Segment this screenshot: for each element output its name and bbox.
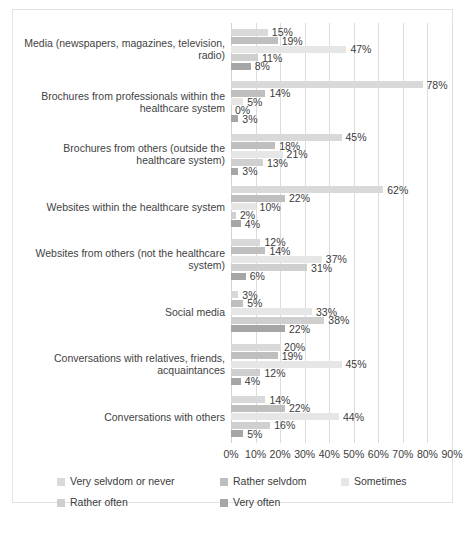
bar[interactable] [231,212,236,219]
category-label: Conversations with relatives, friends, a… [19,352,225,376]
legend-item[interactable]: Sometimes [341,471,407,492]
bar-line: 44% [231,413,452,420]
bar[interactable] [231,239,260,246]
chart-legend: Very selvdom or neverRather selvdomSomet… [57,471,429,513]
bar-group: 15%19%47%11%8% [231,29,452,71]
bar-line: 5% [231,300,452,307]
legend-label: Very often [233,497,280,508]
bar[interactable] [231,115,238,122]
bar-value-label: 21% [287,149,308,160]
bar-value-label: 31% [311,262,332,273]
bar-value-label: 78% [427,79,448,90]
bar[interactable] [231,273,246,280]
figure-caption [0,512,467,534]
x-tick-label: 90% [441,447,462,461]
bar[interactable] [231,325,285,332]
bar-line: 5% [231,430,452,437]
legend-item[interactable]: Rather often [57,492,128,513]
x-tick-label: 20% [270,447,291,461]
bar-line: 14% [231,90,452,97]
bar-value-label: 22% [289,193,310,204]
bar-value-label: 5% [247,298,262,309]
bar[interactable] [231,405,285,412]
bar-line: 37% [231,256,452,263]
bar[interactable] [231,63,251,70]
bar[interactable] [231,142,275,149]
bar-value-label: 6% [250,271,265,282]
bar-value-label: 19% [282,350,303,361]
bar[interactable] [231,430,243,437]
x-tick-label: 10% [245,447,266,461]
bar[interactable] [231,300,243,307]
bar-value-label: 22% [289,403,310,414]
legend-label: Sometimes [354,476,407,487]
bar-value-label: 14% [269,394,290,405]
bar-line: 22% [231,405,452,412]
bar-line: 38% [231,317,452,324]
bar[interactable] [231,29,268,36]
bar-value-label: 45% [346,359,367,370]
bar-line: 2% [231,212,452,219]
bar[interactable] [231,81,423,88]
bar-value-label: 4% [245,376,260,387]
bar-line: 4% [231,378,452,385]
bar-line: 3% [231,291,452,298]
bar-line: 19% [231,37,452,44]
bar[interactable] [231,352,278,359]
bar-line: 5% [231,98,452,105]
bar-value-label: 10% [260,201,281,212]
legend-swatch-icon [341,478,349,486]
bar[interactable] [231,264,307,271]
category-label: Conversations with others [19,411,225,423]
legend-swatch-icon [220,478,228,486]
legend-swatch-icon [57,478,65,486]
bar[interactable] [231,46,346,53]
legend-item[interactable]: Very often [220,492,280,513]
x-tick-label: 60% [368,447,389,461]
bar-line: 4% [231,220,452,227]
bar[interactable] [231,247,265,254]
bar[interactable] [231,168,238,175]
bar[interactable] [231,361,342,368]
bar-value-label: 13% [267,157,288,168]
bar-line: 8% [231,63,452,70]
bar-group: 20%19%45%12%4% [231,344,452,386]
bar[interactable] [231,308,312,315]
bar-group: 12%14%37%31%6% [231,239,452,281]
bar[interactable] [231,317,324,324]
legend-swatch-icon [57,499,65,507]
bar-line: 12% [231,239,452,246]
x-tick-label: 0% [223,447,238,461]
legend-label: Rather often [70,497,128,508]
bar-line: 3% [231,168,452,175]
bar-line: 6% [231,273,452,280]
bar[interactable] [231,256,322,263]
bar-line: 15% [231,29,452,36]
bar-value-label: 47% [350,44,371,55]
bar[interactable] [231,378,241,385]
bar-value-label: 5% [247,428,262,439]
bar-value-label: 14% [269,245,290,256]
gridline-90 [452,23,453,443]
bar-value-label: 45% [346,132,367,143]
figure: 15%19%47%11%8%78%14%5%0%3%45%18%21%13%3%… [0,0,467,534]
bar[interactable] [231,396,265,403]
bar-group: 45%18%21%13%3% [231,134,452,176]
bar[interactable] [231,37,278,44]
bar-groups: 15%19%47%11%8%78%14%5%0%3%45%18%21%13%3%… [231,23,452,443]
legend-item[interactable]: Very selvdom or never [57,471,174,492]
category-label: Brochures from professionals within the … [19,90,225,114]
legend-row: Rather oftenVery often [57,492,429,513]
bar[interactable] [231,220,241,227]
bar-value-label: 8% [255,61,270,72]
bar-value-label: 38% [328,315,349,326]
legend-item[interactable]: Rather selvdom [220,471,307,492]
bar-line: 3% [231,115,452,122]
bar-line: 14% [231,396,452,403]
bar-line: 20% [231,344,452,351]
bar-value-label: 3% [242,113,257,124]
bar[interactable] [231,291,238,298]
bar-group: 14%22%44%16%5% [231,396,452,438]
bar-line: 13% [231,159,452,166]
bar[interactable] [231,344,280,351]
